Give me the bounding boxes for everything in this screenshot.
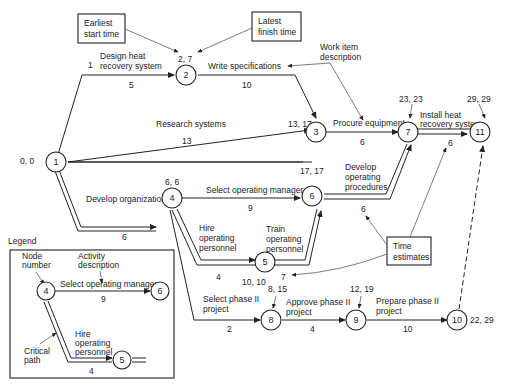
pert-network-diagram: Earliest start time Latest finish time W… (0, 0, 509, 390)
svg-text:start time: start time (84, 29, 119, 39)
legend: Legend Node number Activity description … (8, 236, 174, 378)
svg-text:0, 0: 0, 0 (20, 156, 34, 166)
svg-text:Select operating manager: Select operating manager (60, 279, 158, 289)
svg-text:23, 23: 23, 23 (399, 94, 423, 104)
svg-text:6, 6: 6, 6 (165, 177, 179, 187)
svg-text:8, 15: 8, 15 (268, 284, 287, 294)
svg-text:Design heat: Design heat (100, 51, 146, 61)
svg-text:13: 13 (182, 136, 192, 146)
svg-text:personnel: personnel (75, 347, 112, 357)
svg-text:operating: operating (345, 172, 381, 182)
svg-text:Develop: Develop (345, 162, 376, 172)
svg-text:3: 3 (313, 127, 318, 137)
svg-text:Procure equipment: Procure equipment (333, 118, 405, 128)
svg-text:10: 10 (403, 324, 413, 334)
svg-text:estimates: estimates (393, 252, 429, 262)
svg-text:6: 6 (309, 191, 314, 201)
svg-text:finish time: finish time (258, 27, 297, 37)
callout-earliest-start: Earliest start time (78, 14, 125, 43)
node-11: 11 (470, 122, 490, 142)
svg-text:Approve phase II: Approve phase II (286, 297, 350, 307)
svg-text:project: project (203, 304, 229, 314)
svg-text:recovery system: recovery system (100, 61, 162, 71)
legend-title: Legend (8, 236, 37, 246)
svg-text:2, 7: 2, 7 (178, 54, 192, 64)
svg-text:1: 1 (88, 60, 93, 70)
node-9: 9 (346, 310, 366, 330)
svg-text:Develop organization: Develop organization (86, 194, 166, 204)
svg-text:10: 10 (452, 315, 462, 325)
svg-text:6: 6 (122, 232, 127, 242)
svg-text:5: 5 (129, 80, 134, 90)
svg-text:5: 5 (262, 257, 267, 267)
svg-text:9: 9 (101, 294, 106, 304)
svg-text:10: 10 (242, 80, 252, 90)
svg-text:project: project (286, 307, 312, 317)
svg-text:6: 6 (360, 137, 365, 147)
node-6: 6 (302, 186, 322, 206)
svg-text:operating: operating (199, 233, 235, 243)
svg-text:Train: Train (266, 224, 285, 234)
svg-text:Work item: Work item (320, 42, 358, 52)
svg-text:4: 4 (89, 366, 94, 376)
node-8: 8 (261, 310, 281, 330)
svg-text:4: 4 (43, 286, 48, 296)
svg-text:9: 9 (248, 203, 253, 213)
svg-text:Time: Time (393, 241, 412, 251)
svg-text:procedures: procedures (345, 182, 388, 192)
svg-text:Select operating manager: Select operating manager (206, 185, 304, 195)
svg-text:number: number (22, 260, 51, 270)
node-3: 3 (306, 122, 326, 142)
svg-text:29, 29: 29, 29 (467, 94, 491, 104)
node-1: 1 (46, 152, 66, 172)
svg-text:Latest: Latest (258, 16, 282, 26)
svg-text:Prepare phase II: Prepare phase II (376, 296, 439, 306)
callout-time-estimates: Time estimates (387, 237, 431, 265)
svg-text:5: 5 (119, 355, 124, 365)
svg-text:12, 19: 12, 19 (350, 284, 374, 294)
node-10: 10 (447, 310, 467, 330)
node-2: 2 (176, 65, 196, 85)
svg-text:22, 29: 22, 29 (470, 315, 494, 325)
svg-text:6: 6 (448, 138, 453, 148)
node-5: 5 (255, 252, 275, 272)
svg-text:6: 6 (157, 286, 162, 296)
node-4: 4 (162, 188, 182, 208)
svg-text:project: project (376, 306, 402, 316)
node-7: 7 (398, 122, 418, 142)
svg-text:description: description (78, 260, 119, 270)
svg-text:10, 10: 10, 10 (242, 277, 266, 287)
svg-text:description: description (320, 52, 361, 62)
svg-text:Earliest: Earliest (84, 18, 113, 28)
svg-text:9: 9 (353, 315, 358, 325)
svg-text:personnel: personnel (266, 244, 303, 254)
svg-text:8: 8 (268, 315, 273, 325)
svg-text:Research systems: Research systems (156, 119, 226, 129)
svg-text:operating: operating (266, 234, 302, 244)
svg-text:path: path (24, 355, 41, 365)
callout-work-item: Work item description (320, 42, 361, 62)
svg-text:Hire: Hire (199, 223, 215, 233)
svg-text:4: 4 (216, 272, 221, 282)
svg-text:11: 11 (475, 127, 484, 137)
svg-text:4: 4 (169, 193, 174, 203)
svg-text:1: 1 (53, 157, 58, 167)
svg-text:4: 4 (310, 324, 315, 334)
svg-text:17, 17: 17, 17 (300, 166, 324, 176)
svg-text:6: 6 (361, 204, 366, 214)
svg-text:2: 2 (183, 70, 188, 80)
svg-text:7: 7 (281, 272, 286, 282)
svg-text:Write specifications: Write specifications (208, 61, 281, 71)
svg-text:2: 2 (227, 324, 232, 334)
svg-text:personnel: personnel (199, 243, 236, 253)
svg-text:Select phase II: Select phase II (203, 294, 259, 304)
svg-text:7: 7 (405, 127, 410, 137)
callout-latest-finish: Latest finish time (252, 12, 301, 41)
